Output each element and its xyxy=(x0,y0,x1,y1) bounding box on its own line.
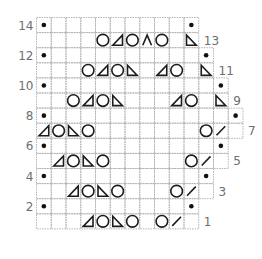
chart-cell xyxy=(37,63,52,78)
purl-dot-icon xyxy=(219,144,224,149)
purl-dot-icon xyxy=(204,174,209,179)
chart-cell xyxy=(81,108,96,123)
chart-row xyxy=(37,184,214,199)
chart-cell xyxy=(51,214,66,229)
left-triangle-icon xyxy=(39,126,49,136)
chart-cell xyxy=(125,123,140,138)
chart-cell xyxy=(169,199,184,214)
chart-row xyxy=(37,138,229,153)
chart-cell xyxy=(140,78,155,93)
chart-cell xyxy=(125,184,140,199)
row-number-label: 2 xyxy=(26,200,34,214)
chart-cell xyxy=(169,123,184,138)
yarn-over-icon xyxy=(186,95,198,107)
chart-cell xyxy=(125,48,140,63)
chart-cell xyxy=(96,169,111,184)
yarn-over-icon xyxy=(97,155,109,167)
purl-dot-icon xyxy=(42,83,47,88)
chart-cell xyxy=(96,48,111,63)
chart-cell xyxy=(37,214,52,229)
chart-cell xyxy=(155,199,170,214)
knitting-chart: 1413121110987654321 xyxy=(0,0,262,259)
slash-decrease-icon xyxy=(187,187,196,196)
chart-cell xyxy=(140,214,155,229)
chart-cell xyxy=(37,153,52,168)
chart-cell xyxy=(228,123,243,138)
chart-cell xyxy=(169,48,184,63)
row-number-label: 11 xyxy=(219,64,234,78)
chart-cell xyxy=(81,199,96,214)
chart-row xyxy=(37,153,229,168)
chart-cell xyxy=(81,138,96,153)
chart-cell xyxy=(51,169,66,184)
chart-cell xyxy=(125,78,140,93)
chart-cell xyxy=(81,48,96,63)
chart-cell xyxy=(110,199,125,214)
purl-dot-icon xyxy=(42,23,47,28)
right-triangle-icon xyxy=(201,65,211,75)
purl-dot-icon xyxy=(233,113,238,118)
chart-cell xyxy=(199,138,214,153)
chart-grid xyxy=(37,18,244,229)
chart-cell xyxy=(66,108,81,123)
yarn-over-icon xyxy=(127,34,139,46)
chart-cell xyxy=(66,199,81,214)
chart-cell xyxy=(66,18,81,33)
chart-cell xyxy=(51,138,66,153)
row-number-label: 7 xyxy=(248,124,256,138)
chart-cell xyxy=(37,93,52,108)
chart-cell xyxy=(155,153,170,168)
chart-cell xyxy=(140,153,155,168)
row-number-label: 8 xyxy=(26,109,34,123)
chart-cell xyxy=(155,138,170,153)
chart-cell xyxy=(110,18,125,33)
chart-cell xyxy=(66,214,81,229)
chart-cell xyxy=(169,108,184,123)
left-triangle-icon xyxy=(83,216,93,226)
yarn-over-icon xyxy=(112,185,124,197)
chart-cell xyxy=(140,18,155,33)
purl-dot-icon xyxy=(42,144,47,149)
chart-cell xyxy=(110,123,125,138)
chart-row xyxy=(37,18,199,33)
row-number-label: 9 xyxy=(233,94,241,108)
double-decrease-icon xyxy=(143,35,152,45)
chart-cell xyxy=(125,199,140,214)
chart-cell xyxy=(51,108,66,123)
chart-cell xyxy=(155,108,170,123)
chart-cell xyxy=(184,123,199,138)
chart-cell xyxy=(140,63,155,78)
chart-row xyxy=(37,199,199,214)
chart-row xyxy=(37,78,229,93)
chart-cell xyxy=(169,33,184,48)
right-triangle-icon xyxy=(113,96,123,106)
chart-cell xyxy=(81,33,96,48)
row-number-label: 3 xyxy=(219,185,227,199)
yarn-over-icon xyxy=(82,185,94,197)
chart-cell xyxy=(66,33,81,48)
yarn-over-icon xyxy=(171,185,183,197)
right-triangle-icon xyxy=(113,216,123,226)
yarn-over-icon xyxy=(97,34,109,46)
row-number-label: 13 xyxy=(204,34,219,48)
chart-row xyxy=(37,169,214,184)
chart-cell xyxy=(96,18,111,33)
chart-cell xyxy=(169,18,184,33)
chart-cell xyxy=(125,93,140,108)
chart-cell xyxy=(51,93,66,108)
chart-cell xyxy=(140,138,155,153)
right-triangle-icon xyxy=(83,156,93,166)
right-triangle-icon xyxy=(69,126,79,136)
right-triangle-icon xyxy=(216,96,226,106)
chart-row xyxy=(37,48,214,63)
chart-cell xyxy=(140,108,155,123)
chart-cell xyxy=(169,169,184,184)
chart-cell xyxy=(199,108,214,123)
yarn-over-icon xyxy=(156,34,168,46)
row-number-label: 5 xyxy=(233,154,241,168)
yarn-over-icon xyxy=(171,65,183,77)
chart-cell xyxy=(37,184,52,199)
chart-row xyxy=(37,63,214,78)
row-number-label: 10 xyxy=(18,79,33,93)
chart-cell xyxy=(140,169,155,184)
